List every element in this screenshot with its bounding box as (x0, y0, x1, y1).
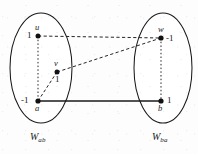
set-label-right: Wba (152, 132, 168, 144)
figure-container: u v a w b 1 1 -1 -1 1 Wab Wba (0, 0, 198, 154)
vertex-value-v: 1 (55, 75, 60, 84)
vertex-label-u: u (35, 23, 39, 32)
vertex-u (36, 34, 41, 39)
vertex-label-v: v (54, 59, 58, 68)
vertex-label-w: w (158, 25, 164, 34)
vertex-label-a: a (35, 104, 39, 113)
vertex-value-u: 1 (27, 31, 32, 40)
vertex-value-b: 1 (167, 96, 172, 105)
set-label-left-subscript: ab (38, 136, 45, 144)
vertex-value-w: -1 (166, 34, 174, 43)
set-label-right-subscript: ba (160, 136, 167, 144)
vertex-w (158, 35, 163, 40)
set-ellipse-left (10, 13, 72, 123)
set-label-left: Wab (30, 132, 46, 144)
vertex-label-b: b (158, 104, 162, 113)
vertex-value-a: -1 (21, 96, 29, 105)
